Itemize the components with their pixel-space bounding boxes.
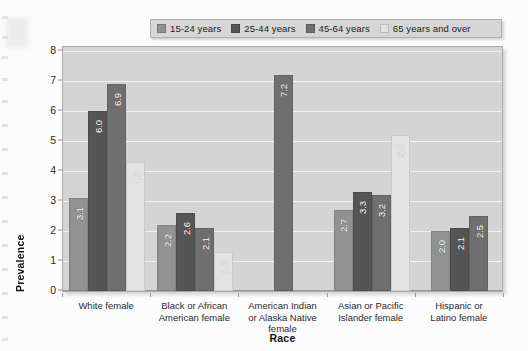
bar[interactable]: 7.2 bbox=[274, 75, 293, 291]
x-category-label-line: American female bbox=[150, 312, 238, 324]
x-category-label: White female bbox=[62, 300, 150, 312]
bar-value-label: 5.2 bbox=[395, 144, 406, 157]
bar-value-label: 3.1 bbox=[73, 207, 84, 220]
y-tick-label: 7 bbox=[50, 74, 56, 86]
x-tick-mark bbox=[62, 293, 63, 297]
y-tick-label: 4 bbox=[50, 164, 56, 176]
bar[interactable]: 3.3 bbox=[353, 192, 372, 291]
plot-area: 3.16.06.94.32.22.62.11.37.22.73.33.25.22… bbox=[62, 46, 503, 292]
legend-item[interactable]: 45-64 years bbox=[306, 23, 370, 34]
bar-value-label: 3.2 bbox=[376, 204, 387, 217]
legend-item[interactable]: 25-44 years bbox=[231, 23, 295, 34]
bar[interactable]: 2.5 bbox=[469, 216, 488, 291]
chart-legend: 15-24 years25-44 years45-64 years65 year… bbox=[150, 19, 502, 38]
scan-mark bbox=[2, 36, 8, 39]
legend-swatch-icon bbox=[306, 24, 315, 33]
legend-swatch-icon bbox=[157, 24, 166, 33]
scan-mark bbox=[2, 292, 8, 295]
y-tick-label: 0 bbox=[50, 284, 56, 296]
bar-value-label: 2.0 bbox=[435, 240, 446, 253]
bar-value-label: 6.9 bbox=[111, 93, 122, 106]
legend-item[interactable]: 15-24 years bbox=[157, 23, 221, 34]
bar-value-label: 2.7 bbox=[338, 219, 349, 232]
bar[interactable]: 2.1 bbox=[450, 228, 469, 291]
bar-value-label: 3.3 bbox=[357, 201, 368, 214]
bar[interactable]: 2.1 bbox=[195, 228, 214, 291]
scan-mark bbox=[2, 338, 8, 341]
bar-value-label: 2.5 bbox=[473, 225, 484, 238]
scan-smudge bbox=[6, 18, 28, 48]
x-axis-title: Race bbox=[62, 332, 503, 344]
bar[interactable]: 2.0 bbox=[431, 231, 450, 291]
y-tick-label: 1 bbox=[50, 254, 56, 266]
scan-mark bbox=[2, 16, 8, 19]
x-category-label-line: Black or African bbox=[150, 300, 238, 312]
plot-inner: 3.16.06.94.32.22.62.11.37.22.73.33.25.22… bbox=[63, 47, 502, 291]
x-tick-mark bbox=[327, 293, 328, 297]
scan-mark bbox=[2, 316, 8, 319]
x-tick-mark bbox=[415, 293, 416, 297]
bar-value-label: 2.1 bbox=[199, 237, 210, 250]
x-category-label-line: White female bbox=[62, 300, 150, 312]
bar-value-label: 7.2 bbox=[278, 84, 289, 97]
legend-swatch-icon bbox=[231, 24, 240, 33]
x-category-label-line: Hispanic or bbox=[415, 300, 503, 312]
x-category-label-line: or Alaska Native bbox=[238, 312, 326, 324]
legend-swatch-icon bbox=[380, 24, 389, 33]
bar[interactable]: 4.3 bbox=[126, 162, 145, 291]
bar-group: 2.02.12.5 bbox=[416, 47, 504, 291]
bar[interactable]: 1.3 bbox=[214, 252, 233, 291]
y-tick-label: 6 bbox=[50, 104, 56, 116]
y-tick-label: 3 bbox=[50, 194, 56, 206]
x-tick-mark bbox=[238, 293, 239, 297]
bar[interactable]: 6.0 bbox=[88, 111, 107, 291]
x-category-label-line: Asian or Pacific bbox=[327, 300, 415, 312]
bar[interactable]: 2.7 bbox=[334, 210, 353, 291]
bar[interactable]: 3.2 bbox=[372, 195, 391, 291]
y-axis: 012345678 bbox=[0, 46, 62, 292]
legend-label: 25-44 years bbox=[244, 23, 295, 34]
bar-value-label: 2.6 bbox=[180, 222, 191, 235]
y-tick-label: 2 bbox=[50, 224, 56, 236]
bar-value-label: 2.2 bbox=[161, 234, 172, 247]
bar-group: 2.73.33.25.2 bbox=[328, 47, 416, 291]
bar-value-label: 6.0 bbox=[92, 120, 103, 133]
y-tick-label: 8 bbox=[50, 44, 56, 56]
x-category-label: American Indianor Alaska Nativefemale bbox=[238, 300, 326, 335]
x-category-label-line: American Indian bbox=[238, 300, 326, 312]
bar-group: 3.16.06.94.3 bbox=[63, 47, 151, 291]
x-category-label: Black or AfricanAmerican female bbox=[150, 300, 238, 323]
legend-label: 65 years and over bbox=[393, 23, 471, 34]
x-category-label-line: Latino female bbox=[415, 312, 503, 324]
legend-label: 15-24 years bbox=[170, 23, 221, 34]
x-category-label: Hispanic orLatino female bbox=[415, 300, 503, 323]
x-category-label-line: Islander female bbox=[327, 312, 415, 324]
bar-value-label: 4.3 bbox=[130, 171, 141, 184]
x-tick-mark bbox=[503, 293, 504, 297]
bar-value-label: 2.1 bbox=[454, 237, 465, 250]
bar-group: 2.22.62.11.3 bbox=[151, 47, 239, 291]
legend-item[interactable]: 65 years and over bbox=[380, 23, 471, 34]
x-category-label: Asian or PacificIslander female bbox=[327, 300, 415, 323]
x-tick-mark bbox=[150, 293, 151, 297]
legend-label: 45-64 years bbox=[319, 23, 370, 34]
bar[interactable]: 2.2 bbox=[157, 225, 176, 291]
bar[interactable]: 3.1 bbox=[69, 198, 88, 291]
bar-value-label: 1.3 bbox=[218, 261, 229, 274]
x-axis: White femaleBlack or AfricanAmerican fem… bbox=[62, 293, 503, 335]
bar-group: 7.2 bbox=[239, 47, 327, 291]
y-tick-label: 5 bbox=[50, 134, 56, 146]
bar[interactable]: 6.9 bbox=[107, 84, 126, 291]
bar[interactable]: 5.2 bbox=[391, 135, 410, 291]
bar[interactable]: 2.6 bbox=[176, 213, 195, 291]
